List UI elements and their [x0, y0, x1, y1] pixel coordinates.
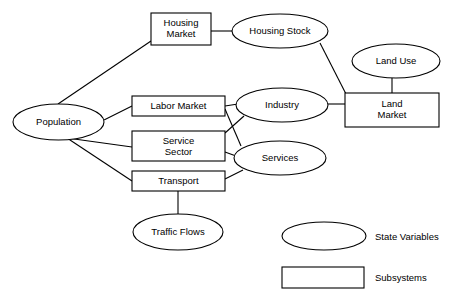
node-traffic-flows[interactable] [133, 214, 223, 250]
legend-state-variables-ellipse [282, 222, 366, 250]
node-industry[interactable] [236, 88, 328, 122]
edge-labor-market-services [225, 109, 241, 146]
node-housing-market[interactable] [151, 13, 211, 45]
node-service-sector[interactable] [132, 131, 225, 161]
legend-subsystems-rect [282, 267, 364, 288]
node-housing-stock[interactable] [232, 14, 328, 48]
edge-transport-services [225, 170, 243, 179]
edge-population-labor-market [104, 106, 132, 120]
diagram-svg [0, 0, 456, 302]
edge-population-service-sector [67, 138, 132, 147]
node-transport[interactable] [132, 171, 225, 191]
node-services[interactable] [234, 141, 326, 175]
diagram-canvas: Population HousingMarket Housing Stock L… [0, 0, 456, 302]
node-population[interactable] [13, 104, 104, 140]
edge-population-transport [67, 138, 132, 181]
node-land-use[interactable] [352, 44, 440, 78]
edge-housing-stock-land-market [320, 43, 346, 94]
node-labor-market[interactable] [132, 96, 225, 116]
node-land-market[interactable] [345, 93, 439, 127]
legend-group [282, 222, 366, 288]
legend-label-state-variables: State Variables [375, 231, 439, 242]
edge-population-housing-market [58, 41, 151, 104]
legend-label-subsystems: Subsystems [375, 272, 427, 283]
